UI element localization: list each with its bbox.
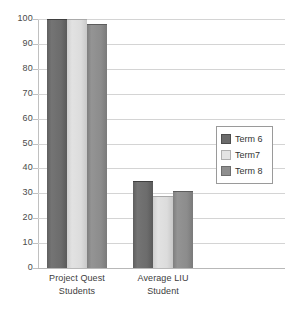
legend-item[interactable]: Term7 [221, 147, 268, 163]
bar-chart: 0102030405060708090100 Project QuestStud… [0, 0, 299, 317]
y-axis-tick-20 [33, 218, 38, 219]
y-axis-tick-60 [33, 119, 38, 120]
bar [153, 196, 173, 268]
y-axis-tick-70 [33, 94, 38, 95]
bar [87, 24, 107, 268]
bar-fill [47, 19, 67, 268]
legend-item[interactable]: Term 6 [221, 131, 268, 147]
y-axis-label-20: 20 [3, 213, 33, 222]
y-axis-tick-0 [33, 268, 38, 269]
y-axis-label-100: 100 [3, 14, 33, 23]
x-axis-category-labels: Project QuestStudentsAverage LIUStudent [38, 272, 285, 314]
y-axis-label-60: 60 [3, 114, 33, 123]
y-axis-label-30: 30 [3, 188, 33, 197]
bar-fill [173, 191, 193, 268]
y-axis-label-40: 40 [3, 163, 33, 172]
bar [173, 191, 193, 268]
bar-fill [133, 181, 153, 268]
x-axis-label-line: Students [32, 285, 122, 298]
bar-group [133, 19, 193, 268]
legend-swatch-icon [221, 134, 231, 144]
legend-swatch-icon [221, 150, 231, 160]
y-axis-tick-50 [33, 144, 38, 145]
y-axis-tick-100 [33, 19, 38, 20]
bar-fill [153, 196, 173, 268]
legend-label: Term 6 [235, 134, 263, 144]
bar [47, 19, 67, 268]
legend-item[interactable]: Term 8 [221, 163, 268, 179]
x-axis-label-line: Project Quest [32, 272, 122, 285]
bar [133, 181, 153, 268]
y-axis-label-80: 80 [3, 64, 33, 73]
gridline-0 [38, 268, 285, 269]
legend-label: Term 8 [235, 166, 263, 176]
x-axis-label-line: Student [118, 285, 208, 298]
y-axis-tick-labels: 0102030405060708090100 [0, 0, 33, 317]
y-axis-tick-80 [33, 69, 38, 70]
y-axis-label-90: 90 [3, 39, 33, 48]
legend-label: Term7 [235, 150, 260, 160]
bar-fill [67, 19, 87, 268]
y-axis-tick-40 [33, 168, 38, 169]
x-axis-label: Average LIUStudent [118, 272, 208, 298]
bar [67, 19, 87, 268]
y-axis-label-0: 0 [3, 263, 33, 272]
y-axis-label-10: 10 [3, 238, 33, 247]
legend-swatch-icon [221, 166, 231, 176]
bar-fill [87, 24, 107, 268]
bar-group [47, 19, 107, 268]
x-axis-label: Project QuestStudents [32, 272, 122, 298]
y-axis-tick-30 [33, 193, 38, 194]
y-axis-tick-10 [33, 243, 38, 244]
x-axis-label-line: Average LIU [118, 272, 208, 285]
chart-legend: Term 6Term7Term 8 [216, 126, 273, 184]
y-axis-label-50: 50 [3, 139, 33, 148]
y-axis-tick-90 [33, 44, 38, 45]
y-axis-label-70: 70 [3, 89, 33, 98]
